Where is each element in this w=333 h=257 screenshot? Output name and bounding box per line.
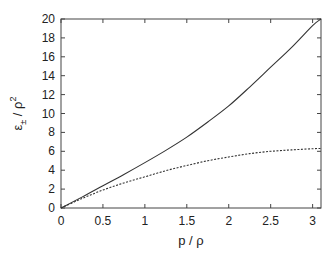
y-tick-label: 0 xyxy=(48,201,55,215)
x-tick-label: 3 xyxy=(309,214,316,228)
x-tick-label: 0 xyxy=(58,214,65,228)
x-tick-label: 1.5 xyxy=(178,214,195,228)
x-tick-label: 2.5 xyxy=(262,214,279,228)
plot-border xyxy=(61,19,321,208)
y-tick-label: 16 xyxy=(42,50,56,64)
y-tick-label: 4 xyxy=(48,163,55,177)
y-tick-label: 12 xyxy=(42,88,56,102)
series-layer xyxy=(61,19,321,208)
x-axis-label: p / ρ xyxy=(178,233,203,248)
y-tick-label: 2 xyxy=(48,182,55,196)
y-axis-ticks: 02468101214161820 xyxy=(42,12,321,215)
series-dashed-line xyxy=(61,148,321,208)
y-tick-label: 14 xyxy=(42,69,56,83)
y-tick-label: 6 xyxy=(48,144,55,158)
x-tick-label: 2 xyxy=(225,214,232,228)
y-axis-label: ε± / ρ2 xyxy=(8,97,28,131)
x-tick-label: 0.5 xyxy=(95,214,112,228)
plot-frame xyxy=(61,19,321,208)
y-tick-label: 8 xyxy=(48,125,55,139)
x-tick-label: 1 xyxy=(142,214,149,228)
y-tick-label: 20 xyxy=(42,12,56,26)
x-axis-ticks: 00.511.522.53 xyxy=(58,19,317,228)
line-chart: 00.511.522.53 02468101214161820 p / ρ ε±… xyxy=(0,0,333,257)
y-tick-label: 18 xyxy=(42,31,56,45)
y-tick-label: 10 xyxy=(42,107,56,121)
series-solid-line xyxy=(61,19,321,208)
